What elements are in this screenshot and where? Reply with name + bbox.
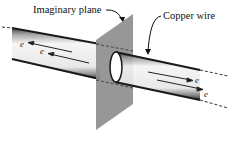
diagram-canvas (0, 0, 233, 144)
wire-cross-section (110, 52, 122, 82)
imaginary-plane-label: Imaginary plane (33, 5, 102, 16)
copper-wire-label: Copper wire (163, 11, 215, 22)
plane-label-leader (106, 10, 122, 20)
electron-label-left-1: e (20, 40, 24, 49)
electron-label-right-2: e (204, 90, 208, 99)
electron-label-left-2: e (40, 47, 44, 56)
wire-label-leader (148, 16, 161, 52)
electron-label-right-1: e (195, 76, 199, 85)
